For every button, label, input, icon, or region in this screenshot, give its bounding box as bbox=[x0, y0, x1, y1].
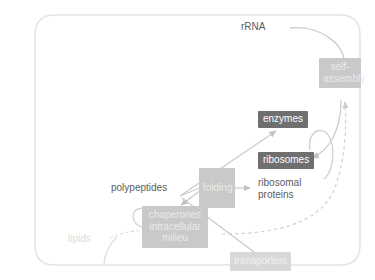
node-enzymes[interactable]: enzymes bbox=[258, 111, 308, 128]
node-rrna[interactable]: rRNA bbox=[241, 21, 265, 33]
membrane-lipid-hook bbox=[104, 237, 117, 264]
edge-rrna-to-self-assembly bbox=[290, 28, 344, 62]
node-lipids[interactable]: lipids bbox=[68, 233, 91, 245]
edge-self-assembly-to-ribosomes bbox=[312, 100, 341, 158]
node-self-assembly[interactable]: self- assembly bbox=[319, 58, 361, 88]
node-ribosomes[interactable]: ribosomes bbox=[258, 152, 314, 169]
node-polypeptides[interactable]: polypeptides bbox=[111, 182, 167, 194]
node-ribosomal-proteins[interactable]: ribosomal proteins bbox=[258, 177, 301, 200]
diagram-canvas: rRNA self- assembly enzymes ribosomes ri… bbox=[0, 0, 375, 280]
node-chaperones-intracellular-milieu[interactable]: chaperones intracellular milieu bbox=[142, 206, 208, 248]
node-transporters[interactable]: transporters bbox=[230, 252, 291, 271]
node-folding[interactable]: folding bbox=[199, 168, 235, 208]
